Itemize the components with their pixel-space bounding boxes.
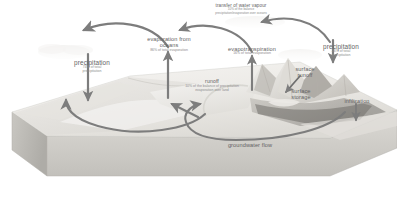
water-cycle-diagram: transfer of water vapour 10% of the bala… bbox=[0, 0, 397, 210]
arrow-surface-runoff bbox=[286, 76, 300, 92]
arrow-runoff-loop bbox=[66, 100, 205, 132]
arrow-transfer-water-vapour bbox=[262, 19, 330, 42]
arrow-evaporation-arc-left bbox=[84, 23, 168, 47]
arrow-evapotranspiration-arc bbox=[180, 26, 252, 52]
arrow-layer bbox=[0, 0, 397, 210]
arrow-groundwater-flow bbox=[185, 104, 345, 140]
